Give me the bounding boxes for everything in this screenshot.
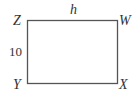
side-label-top: h — [70, 3, 77, 17]
vertex-label-x: X — [119, 78, 128, 92]
vertex-label-y: Y — [13, 78, 21, 92]
side-label-left: 10 — [9, 45, 22, 59]
vertex-label-z: Z — [13, 14, 21, 28]
rectangle-zwxy — [28, 21, 118, 84]
vertex-label-w: W — [119, 14, 131, 28]
